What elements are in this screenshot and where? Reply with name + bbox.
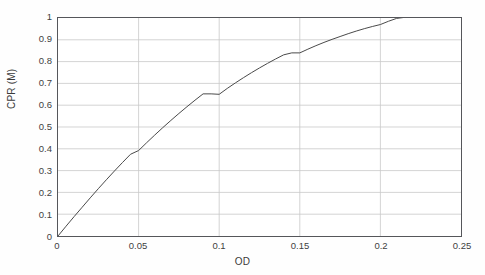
y-tick-label: 1 [47,12,52,22]
x-tick-label: 0.25 [453,241,472,251]
y-tick-label: 0.6 [39,100,52,110]
y-tick-label: 0.9 [39,34,52,44]
y-axis-tick-labels: 00.10.20.30.40.50.60.70.80.91 [0,0,52,275]
x-tick-label: 0.05 [129,241,148,251]
series-line-0 [58,18,413,236]
y-tick-label: 0.2 [39,188,52,198]
x-tick-label: 0 [54,241,59,251]
y-tick-label: 0.4 [39,144,52,154]
x-tick-label: 0.1 [212,241,225,251]
y-tick-label: 0.7 [39,78,52,88]
x-tick-label: 0.2 [374,241,387,251]
x-axis-title: OD [0,256,485,267]
chart-figure: 00.10.20.30.40.50.60.70.80.91 CPR (M) 00… [0,0,485,275]
x-axis-tick-labels: 00.050.10.150.20.25 [0,241,485,255]
y-axis-title: CPR (M) [6,95,17,109]
x-axis-title-text: OD [235,256,250,267]
y-tick-label: 0.8 [39,56,52,66]
y-tick-label: 0.3 [39,166,52,176]
y-tick-label: 0.5 [39,122,52,132]
y-axis-title-text: CPR (M) [6,69,17,109]
y-tick-label: 0.1 [39,210,52,220]
plot-area [57,17,462,237]
data-series-cpr-curve [58,18,461,236]
x-tick-label: 0.15 [291,241,310,251]
